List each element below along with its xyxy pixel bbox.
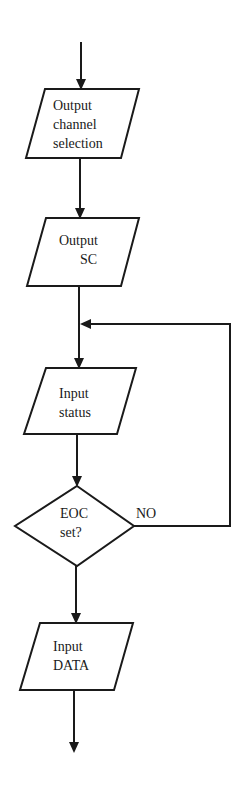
exit-arrowhead-icon — [69, 742, 79, 753]
node-label: Output SC — [59, 231, 98, 269]
label-line: Input — [53, 637, 89, 656]
loop-arrowhead-icon — [80, 319, 91, 329]
label-line: Output — [53, 96, 103, 115]
label-line: set? — [60, 523, 88, 542]
label-line: Output — [59, 231, 98, 250]
node-label: EOC set? — [60, 504, 88, 542]
label-line: SC — [59, 250, 98, 269]
node-label: Output channel selection — [53, 96, 103, 153]
label-line: Input — [59, 384, 91, 403]
node-label: Input DATA — [53, 637, 89, 675]
label-line: channel — [53, 115, 103, 134]
label-line: DATA — [53, 656, 89, 675]
label-line: EOC — [60, 504, 88, 523]
node-label: Input status — [59, 384, 91, 422]
edge-label-no: NO — [136, 504, 156, 523]
flowchart-canvas — [0, 0, 248, 790]
label-line: status — [59, 403, 91, 422]
label-line: selection — [53, 134, 103, 153]
